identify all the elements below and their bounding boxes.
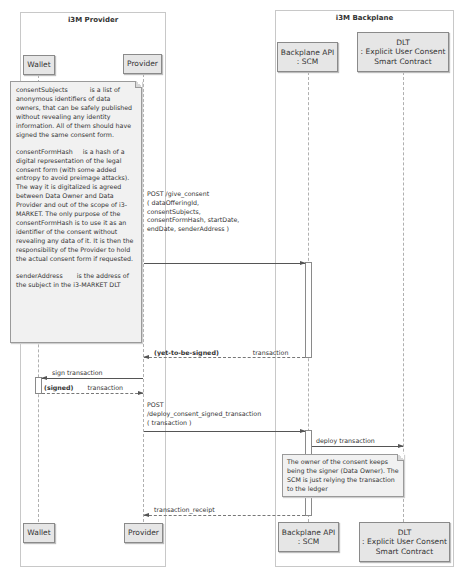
- message-deploy-signed-label: POST /deploy_consent_signed_transaction …: [147, 401, 261, 427]
- message-tag: (yet-to-be-signed): [154, 349, 219, 356]
- note-paragraph: consentFormHashis a hash of a digital re…: [16, 148, 136, 264]
- arrowhead-icon: [300, 429, 306, 433]
- message-give-consent-label: POST /give_consent ( dataOfferingId, con…: [147, 190, 239, 234]
- participant-label: Smart Contract: [361, 57, 446, 66]
- participant-label: Backplane API: [282, 528, 335, 537]
- participant-wallet-top: Wallet: [23, 55, 55, 75]
- note-term: consentSubjects: [16, 86, 68, 93]
- message-text: sign transaction: [52, 369, 103, 376]
- note-consent-details: consentSubjectsis a list of anonymous id…: [10, 81, 142, 343]
- arrow-deploy-transaction: [312, 446, 403, 447]
- arrowhead-icon: [138, 391, 144, 395]
- participant-label: Wallet: [27, 60, 50, 69]
- participant-label: : Explicit User Consent: [361, 47, 446, 56]
- note-fold-icon: [397, 454, 404, 461]
- arrowhead-icon: [143, 513, 149, 517]
- message-text: consentFormHash, startDate,: [147, 216, 239, 225]
- arrowhead-icon: [398, 444, 404, 448]
- message-text: deploy transaction: [316, 437, 375, 444]
- participant-label: : Explicit User Consent: [362, 537, 447, 546]
- participant-scm-top: Backplane API : SCM: [277, 42, 338, 72]
- arrow-deploy-signed: [144, 431, 305, 432]
- message-text: transaction_receipt: [154, 506, 215, 513]
- arrow-sign-transaction: [42, 378, 143, 379]
- participant-label: DLT: [361, 38, 446, 47]
- participant-provider-top: Provider: [123, 54, 162, 74]
- message-text: POST: [147, 401, 261, 410]
- arrowhead-icon: [300, 261, 306, 265]
- message-text: /deploy_consent_signed_transaction: [147, 410, 261, 419]
- message-text: transaction: [87, 384, 123, 391]
- message-text: transaction: [253, 349, 289, 356]
- participant-label: Provider: [127, 59, 158, 68]
- participant-label: Smart Contract: [362, 547, 447, 556]
- arrowhead-icon: [41, 376, 47, 380]
- participant-label: Backplane API: [281, 48, 334, 57]
- arrow-yet-to-be-signed: [144, 357, 305, 358]
- note-signer: The owner of the consent keeps being the…: [282, 454, 404, 497]
- note-term: consentFormHash: [16, 148, 73, 155]
- message-text: ( transaction ): [147, 419, 261, 428]
- message-text: ( dataOfferingId,: [147, 199, 239, 208]
- note-paragraph: consentSubjectsis a list of anonymous id…: [16, 86, 136, 140]
- message-tag: (signed): [44, 384, 73, 391]
- frame-title: i3M Backplane: [276, 14, 453, 22]
- note-fold-icon: [135, 81, 142, 88]
- note-paragraph: senderAddressis the address of the subje…: [16, 272, 136, 290]
- message-text: endDate, senderAddress ): [147, 225, 239, 234]
- note-term: senderAddress: [16, 272, 63, 279]
- participant-scm-bottom: Backplane API : SCM: [278, 522, 339, 552]
- arrowhead-icon: [143, 355, 149, 359]
- message-text: consentSubjects,: [147, 208, 239, 217]
- arrow-transaction-receipt: [144, 515, 305, 516]
- participant-dlt-top: DLT : Explicit User Consent Smart Contra…: [357, 32, 449, 72]
- participant-dlt-bottom: DLT : Explicit User Consent Smart Contra…: [359, 522, 450, 562]
- note-text: The owner of the consent keeps being the…: [287, 458, 399, 492]
- participant-label: : SCM: [281, 57, 334, 66]
- participant-provider-bottom: Provider: [124, 523, 163, 543]
- note-text: is a list of anonymous identifiers of da…: [16, 86, 132, 138]
- participant-label: Wallet: [27, 528, 50, 537]
- message-transaction-receipt-label: transaction_receipt: [154, 506, 215, 515]
- message-deploy-transaction-label: deploy transaction: [316, 437, 375, 446]
- message-sign-transaction-label: sign transaction: [52, 369, 103, 378]
- message-text: POST /give_consent: [147, 190, 239, 199]
- participant-label: DLT: [362, 528, 447, 537]
- frame-title: i3M Provider: [21, 16, 165, 24]
- message-signed-label: (signed) transaction: [44, 384, 123, 393]
- note-text: is a hash of a digital representation of…: [16, 148, 133, 262]
- lifeline-provider: [143, 74, 144, 522]
- participant-label: : SCM: [282, 537, 335, 546]
- participant-label: Provider: [128, 528, 159, 537]
- participant-wallet-bottom: Wallet: [23, 523, 55, 543]
- arrow-give-consent: [144, 263, 305, 264]
- activation-scm-1: [305, 262, 312, 358]
- arrow-signed-transaction: [42, 393, 143, 394]
